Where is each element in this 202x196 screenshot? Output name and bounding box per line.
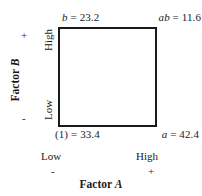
y-axis-low-label: Low: [42, 100, 54, 120]
corner-equals-a: =: [167, 128, 179, 140]
y-axis-title: Factor B: [5, 44, 19, 116]
corner-equals-one: =: [68, 128, 80, 140]
corner-label-one: (1) = 33.4: [55, 128, 100, 140]
x-axis-low-label: Low: [41, 150, 61, 162]
corner-equals-ab: =: [170, 11, 182, 23]
corner-label-a: a = 42.4: [162, 128, 199, 140]
x-axis-high-label: High: [136, 150, 158, 162]
y-axis-low-sign: -: [22, 113, 26, 123]
x-axis-title-prefix: Factor: [80, 178, 115, 190]
x-axis-title-symbol: A: [115, 178, 123, 190]
y-axis-title-symbol: B: [9, 59, 21, 67]
corner-label-b: b = 23.2: [62, 11, 99, 23]
x-axis-high-sign: +: [148, 166, 154, 176]
corner-value-b: 23.2: [80, 11, 100, 23]
corner-value-a: 42.4: [179, 128, 199, 140]
y-axis-low-label-wrap: Low: [38, 80, 52, 140]
design-square: [58, 27, 157, 127]
y-axis-high-label-wrap: High: [38, 10, 52, 70]
corner-equals-b: =: [68, 11, 80, 23]
x-axis-low-sign: -: [51, 166, 55, 176]
corner-symbol-one: (1): [55, 128, 68, 140]
corner-value-one: 33.4: [80, 128, 100, 140]
x-axis-title: Factor A: [0, 178, 202, 191]
y-axis-high-sign: +: [21, 30, 27, 40]
corner-value-ab: 11.6: [182, 11, 201, 23]
y-axis-high-label: High: [42, 29, 54, 51]
corner-label-ab: ab = 11.6: [159, 11, 201, 23]
y-axis-title-prefix: Factor: [9, 66, 21, 101]
factorial-design-figure: b = 23.2 ab = 11.6 (1) = 33.4 a = 42.4 L…: [0, 0, 202, 196]
corner-symbol-ab: ab: [159, 11, 170, 23]
y-axis-title-text: Factor B: [9, 59, 21, 102]
